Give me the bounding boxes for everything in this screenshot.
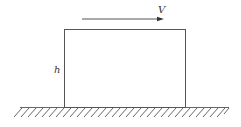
height-label: h xyxy=(54,64,60,75)
velocity-arrow-icon xyxy=(82,17,164,21)
diagram-canvas: V h xyxy=(0,0,241,127)
ground-hatch-icon xyxy=(14,108,229,118)
velocity-label: V xyxy=(158,4,167,15)
block xyxy=(65,30,186,108)
